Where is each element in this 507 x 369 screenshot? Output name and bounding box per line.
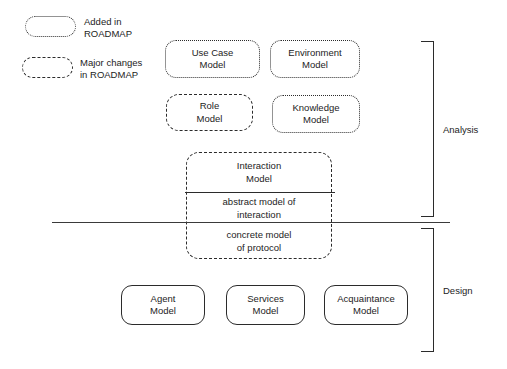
- legend-label-major-changes-line1: Major changes: [80, 57, 142, 70]
- node-role-model-line2: Model: [197, 113, 223, 126]
- phase-label-design: Design: [443, 285, 473, 296]
- node-services-model-line2: Model: [253, 305, 279, 318]
- node-interaction-model[interactable]: Interaction Model abstract model of inte…: [186, 152, 332, 259]
- node-services-model[interactable]: Services Model: [226, 285, 305, 325]
- interaction-compartment-abstract-line1: abstract model of: [223, 196, 296, 209]
- node-acquaintance-model-line1: Acquaintance: [337, 293, 395, 306]
- interaction-compartment-model-line1: Interaction: [237, 160, 281, 173]
- node-knowledge-model-line1: Knowledge: [292, 102, 339, 115]
- node-knowledge-model[interactable]: Knowledge Model: [272, 95, 360, 133]
- node-acquaintance-model-line2: Model: [353, 305, 379, 318]
- legend-label-added-line1: Added in: [84, 16, 122, 29]
- interaction-compartment-concrete-line2: of protocol: [237, 242, 281, 255]
- node-use-case-model-line2: Model: [200, 59, 226, 72]
- bracket-analysis: [421, 41, 434, 217]
- node-role-model-line1: Role: [200, 100, 220, 113]
- node-environment-model-line2: Model: [302, 59, 328, 72]
- node-use-case-model-line1: Use Case: [192, 47, 234, 60]
- interaction-compartment-concrete: concrete model of protocol: [187, 225, 331, 258]
- node-knowledge-model-line2: Model: [303, 114, 329, 127]
- node-role-model[interactable]: Role Model: [166, 94, 253, 131]
- interaction-compartment-concrete-line1: concrete model: [227, 229, 292, 242]
- legend-swatch-added: [25, 16, 76, 37]
- node-environment-model-line1: Environment: [288, 47, 341, 60]
- interaction-compartment-model: Interaction Model: [187, 153, 331, 192]
- phase-label-analysis: Analysis: [443, 124, 478, 135]
- bracket-design: [421, 228, 434, 352]
- interaction-compartment-abstract-line2: interaction: [237, 209, 281, 222]
- interaction-compartment-abstract: abstract model of interaction: [187, 192, 331, 225]
- node-acquaintance-model[interactable]: Acquaintance Model: [324, 285, 408, 325]
- gaia-methodology-diagram: Added in ROADMAP Major changes in ROADMA…: [0, 0, 507, 369]
- node-environment-model[interactable]: Environment Model: [270, 40, 360, 78]
- legend-swatch-major-changes: [22, 57, 73, 78]
- node-agent-model[interactable]: Agent Model: [121, 285, 205, 325]
- node-use-case-model[interactable]: Use Case Model: [165, 40, 260, 78]
- node-services-model-line1: Services: [247, 293, 283, 306]
- legend-label-major-changes-line2: in ROADMAP: [80, 69, 138, 82]
- node-agent-model-line1: Agent: [151, 293, 176, 306]
- legend-label-added-line2: ROADMAP: [84, 28, 132, 41]
- analysis-design-separator: [52, 222, 450, 223]
- node-agent-model-line2: Model: [150, 305, 176, 318]
- interaction-compartment-model-line2: Model: [246, 173, 272, 186]
